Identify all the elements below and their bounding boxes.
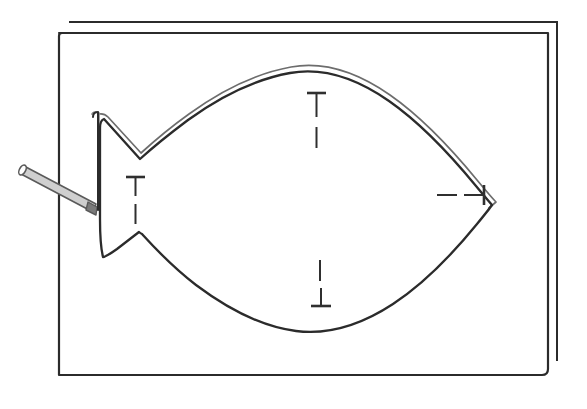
tick-bottom	[311, 260, 331, 306]
rectangular-board	[59, 22, 557, 375]
tick-left	[126, 177, 145, 224]
fish-offset-outline	[99, 65, 496, 208]
fish-main-outline	[100, 71, 492, 331]
fish-template-drawing	[0, 0, 587, 409]
fish-tail-edge	[93, 112, 98, 210]
tick-top	[307, 93, 326, 148]
figure-canvas: Fish-shaped template outline on a rectan…	[0, 0, 587, 409]
stylus-pointer	[17, 164, 97, 215]
inner-panel-face	[59, 33, 548, 375]
fish-shape-cutout	[92, 65, 496, 331]
